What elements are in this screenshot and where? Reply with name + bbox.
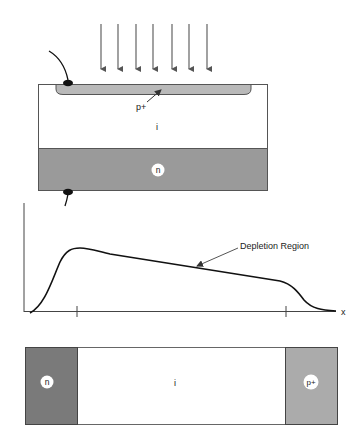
bottom-wire [65, 194, 68, 206]
bar-n-label: n [45, 377, 50, 387]
incident-light-arrows [101, 24, 207, 69]
p-plus-label: p+ [136, 102, 146, 112]
pin-photodiode-diagram: p+ i n x Depletion Region n i p+ [0, 0, 363, 445]
field-plot: x Depletion Region [24, 203, 346, 317]
depletion-pointer-icon [197, 248, 238, 266]
device-cross-section: p+ i n [39, 51, 268, 206]
top-wire [49, 51, 68, 80]
bar-intrinsic-label: i [174, 378, 176, 388]
bar-p-plus-label: p+ [306, 378, 315, 387]
intrinsic-label: i [156, 122, 158, 132]
n-label: n [156, 165, 161, 175]
p-plus-layer [56, 85, 251, 95]
pin-bar: n i p+ [26, 348, 338, 425]
depletion-region-label: Depletion Region [240, 241, 309, 251]
top-contact-icon [63, 80, 73, 86]
x-axis-label: x [341, 307, 346, 317]
field-curve [30, 248, 336, 313]
